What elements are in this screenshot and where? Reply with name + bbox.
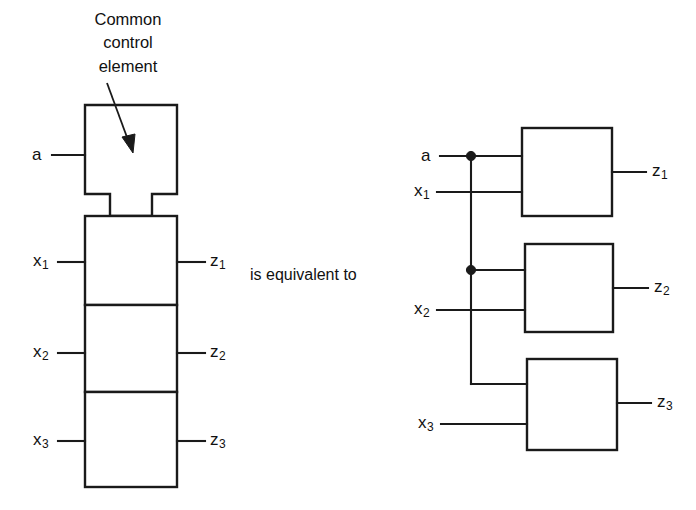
label-z2-left-base: z xyxy=(210,342,219,361)
label-x3-left-base: x xyxy=(33,430,42,449)
label-x1-left-sub: 1 xyxy=(42,258,49,272)
label-x2-right-sub: 2 xyxy=(423,306,430,320)
label-x2-left: x2 xyxy=(33,343,49,362)
label-x3-right-base: x xyxy=(418,413,427,432)
label-x3-left: x3 xyxy=(33,431,49,450)
label-x3-right: x3 xyxy=(418,414,434,433)
label-a-right-base: a xyxy=(421,146,430,165)
label-z3-left: z3 xyxy=(210,431,226,450)
label-z2-right-base: z xyxy=(654,277,663,296)
label-x3-right-sub: 3 xyxy=(427,420,434,434)
left-circuit xyxy=(52,105,205,487)
label-x3-left-sub: 3 xyxy=(42,437,49,451)
label-z1-right-sub: 1 xyxy=(661,168,668,182)
label-x2-right-base: x xyxy=(414,299,423,318)
label-x1-left: x1 xyxy=(33,252,49,271)
label-z1-left: z1 xyxy=(210,252,226,271)
cell-3-block[interactable] xyxy=(85,392,177,487)
label-x1-right: x1 xyxy=(414,182,430,201)
label-z3-right-base: z xyxy=(657,392,666,411)
junction-dot-2 xyxy=(466,265,475,274)
label-a-left-base: a xyxy=(32,145,41,164)
label-x2-right: x2 xyxy=(414,300,430,319)
junction-dot-1 xyxy=(466,151,475,160)
label-z3-left-base: z xyxy=(210,430,219,449)
label-z3-right-sub: 3 xyxy=(666,399,673,413)
label-z3-left-sub: 3 xyxy=(219,437,226,451)
label-x1-right-sub: 1 xyxy=(423,188,430,202)
label-x2-left-sub: 2 xyxy=(42,349,49,363)
annotation-common-control-element: Common control element xyxy=(58,8,198,78)
label-x1-left-base: x xyxy=(33,251,42,270)
cell-1-block[interactable] xyxy=(85,216,177,305)
label-x2-left-base: x xyxy=(33,342,42,361)
label-z1-right: z1 xyxy=(652,162,668,181)
common-control-element-block[interactable] xyxy=(85,105,177,216)
label-a-left: a xyxy=(32,146,41,163)
cell-2-block[interactable] xyxy=(85,305,177,392)
block-2-z2[interactable] xyxy=(525,244,613,332)
label-z2-left-sub: 2 xyxy=(219,349,226,363)
label-x1-right-base: x xyxy=(414,181,423,200)
block-1-z1[interactable] xyxy=(522,128,612,216)
label-z1-left-base: z xyxy=(210,251,219,270)
label-z3-right: z3 xyxy=(657,393,673,412)
label-z2-left: z2 xyxy=(210,343,226,362)
label-z2-right: z2 xyxy=(654,278,670,297)
label-z2-right-sub: 2 xyxy=(663,284,670,298)
equivalence-caption: is equivalent to xyxy=(250,265,357,285)
label-z1-right-base: z xyxy=(652,161,661,180)
label-a-right: a xyxy=(421,147,430,164)
label-z1-left-sub: 1 xyxy=(219,258,226,272)
figure-root: Common control element is equivalent to … xyxy=(0,0,696,510)
block-3-z3[interactable] xyxy=(527,359,617,450)
right-circuit xyxy=(437,128,651,450)
